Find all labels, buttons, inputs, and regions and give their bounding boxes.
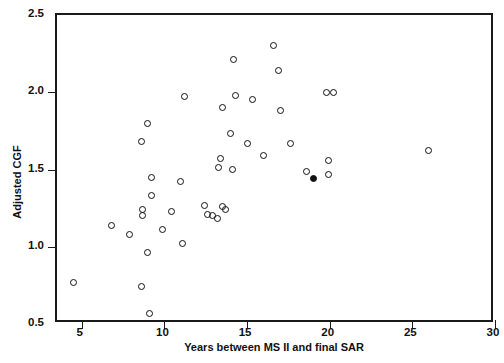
data-point bbox=[217, 155, 224, 162]
data-point bbox=[108, 222, 115, 229]
data-point bbox=[227, 130, 234, 137]
data-point bbox=[181, 93, 188, 100]
x-axis-tick-label: 5 bbox=[77, 326, 83, 338]
x-axis-tick-label: 20 bbox=[321, 326, 334, 338]
data-point bbox=[138, 138, 145, 145]
data-point bbox=[230, 56, 237, 63]
y-axis-tick-label: 2.5 bbox=[28, 7, 44, 19]
x-axis-tick-label: 15 bbox=[239, 326, 252, 338]
x-axis-title: Years between MS II and final SAR bbox=[55, 341, 493, 353]
data-point bbox=[277, 107, 284, 114]
data-point bbox=[229, 166, 236, 173]
data-point bbox=[330, 89, 337, 96]
x-axis-tick-label: 25 bbox=[404, 326, 417, 338]
data-point bbox=[260, 152, 267, 159]
data-point bbox=[168, 208, 175, 215]
data-point bbox=[148, 174, 155, 181]
plot-area bbox=[55, 13, 493, 322]
data-point bbox=[425, 147, 432, 154]
data-point bbox=[325, 157, 332, 164]
data-point bbox=[219, 104, 226, 111]
data-point bbox=[244, 140, 251, 147]
data-point bbox=[201, 202, 208, 209]
y-axis-tick-label: 1.5 bbox=[28, 162, 44, 174]
data-point bbox=[215, 164, 222, 171]
data-point bbox=[310, 175, 317, 182]
data-point bbox=[126, 231, 133, 238]
data-point bbox=[144, 249, 151, 256]
data-point bbox=[222, 206, 229, 213]
y-axis-tick bbox=[48, 170, 57, 171]
data-point bbox=[275, 67, 282, 74]
data-point bbox=[139, 212, 146, 219]
y-axis-tick-label: 2.0 bbox=[28, 84, 44, 96]
y-axis-tick bbox=[48, 247, 57, 248]
data-point bbox=[70, 279, 77, 286]
data-point bbox=[159, 226, 166, 233]
data-point bbox=[287, 140, 294, 147]
data-point bbox=[303, 168, 310, 175]
data-point bbox=[214, 215, 221, 222]
data-point bbox=[179, 240, 186, 247]
data-point bbox=[148, 192, 155, 199]
data-point bbox=[138, 283, 145, 290]
y-axis-tick bbox=[48, 92, 57, 93]
x-axis-tick-label: 30 bbox=[487, 326, 500, 338]
x-axis-tick-label: 10 bbox=[156, 326, 169, 338]
data-point bbox=[323, 89, 330, 96]
y-axis-tick-labels: 0.51.01.52.02.5 bbox=[0, 0, 52, 363]
scatter-plot-figure: Adjusted CGF 0.51.01.52.02.5 51015202530… bbox=[0, 0, 504, 363]
data-point bbox=[232, 92, 239, 99]
data-points-layer bbox=[57, 15, 491, 320]
data-point bbox=[249, 96, 256, 103]
data-point bbox=[144, 120, 151, 127]
data-point bbox=[325, 171, 332, 178]
y-axis-tick-label: 1.0 bbox=[28, 239, 44, 251]
data-point bbox=[146, 310, 153, 317]
data-point bbox=[177, 178, 184, 185]
data-point bbox=[270, 42, 277, 49]
